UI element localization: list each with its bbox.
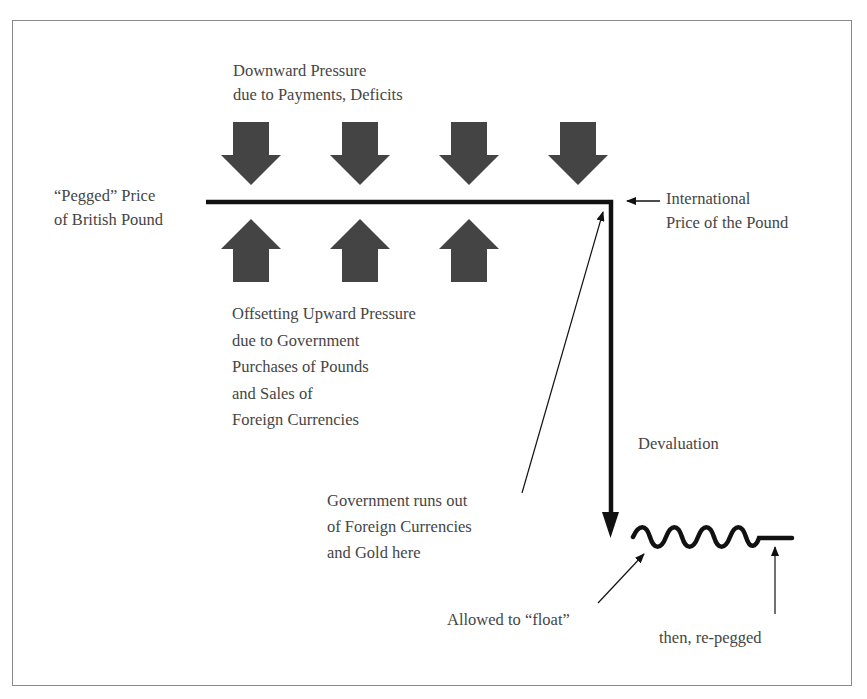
diagram-canvas <box>0 0 867 699</box>
up-arrow-icon <box>330 219 390 282</box>
runs-out-line-1: Government runs out <box>327 488 472 514</box>
devaluation-label: Devaluation <box>638 432 719 456</box>
runs-out-line-2: of Foreign Currencies <box>327 514 472 540</box>
up-arrow-icon <box>439 219 499 282</box>
downward-pressure-label: Downward Pressure due to Payments, Defic… <box>233 59 403 107</box>
downward-pressure-line-1: Downward Pressure <box>233 59 403 83</box>
down-arrow-icon <box>221 122 281 185</box>
repegged-label: then, re-pegged <box>659 626 762 650</box>
down-arrow-icon <box>330 122 390 185</box>
runs-out-line-3: and Gold here <box>327 540 472 566</box>
upward-pressure-line-5: Foreign Currencies <box>232 407 416 434</box>
devaluation-arrowhead-icon <box>602 512 619 538</box>
upward-pressure-line-1: Offsetting Upward Pressure <box>232 301 416 328</box>
down-arrow-icon <box>439 122 499 185</box>
runs-out-pointer <box>522 212 603 493</box>
up-arrow-icon <box>221 219 281 282</box>
upward-pressure-label: Offsetting Upward Pressure due to Govern… <box>232 301 416 434</box>
downward-pressure-line-2: due to Payments, Deficits <box>233 83 403 107</box>
pegged-price-label: “Pegged” Price of British Pound <box>54 184 163 232</box>
upward-pressure-line-4: and Sales of <box>232 381 416 408</box>
international-price-label: International Price of the Pound <box>666 187 788 235</box>
pegged-price-line-2: of British Pound <box>54 208 163 232</box>
float-wave <box>633 527 792 547</box>
down-arrow-icon <box>548 122 608 185</box>
international-price-line-2: Price of the Pound <box>666 211 788 235</box>
pegged-price-line-1: “Pegged” Price <box>54 184 163 208</box>
float-label: Allowed to “float” <box>447 608 570 632</box>
upward-pressure-line-2: due to Government <box>232 328 416 355</box>
international-price-line-1: International <box>666 187 788 211</box>
float-pointer <box>598 554 644 603</box>
runs-out-label: Government runs out of Foreign Currencie… <box>327 488 472 566</box>
upward-pressure-line-3: Purchases of Pounds <box>232 354 416 381</box>
